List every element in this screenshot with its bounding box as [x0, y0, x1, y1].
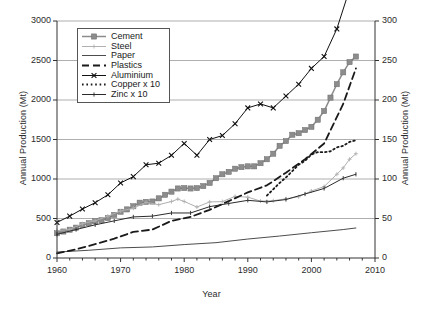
data-point [169, 189, 174, 194]
legend-item-label: Copper x 10 [111, 80, 160, 89]
data-point [226, 169, 231, 174]
data-point [322, 108, 327, 113]
legend-item: Zinc x 10 [81, 90, 164, 100]
data-point [239, 165, 244, 170]
data-point [188, 186, 193, 191]
legend-swatch-plastics [81, 61, 107, 70]
data-point [195, 153, 200, 158]
data-point [328, 95, 333, 100]
y-tick-label-right: 0 [382, 252, 422, 262]
data-point [290, 132, 295, 137]
data-point [80, 207, 85, 212]
data-point [157, 203, 161, 207]
data-point [131, 174, 136, 179]
legend-item-label: Cement [111, 32, 143, 41]
y-tick-label-left: 2500 [9, 55, 51, 65]
x-tick-label: 1960 [35, 265, 79, 275]
x-tick-label: 2000 [289, 265, 333, 275]
data-point [296, 82, 301, 87]
x-tick-label: 1990 [226, 265, 270, 275]
x-tick-label: 1970 [99, 265, 143, 275]
data-point [163, 192, 168, 197]
data-point [309, 66, 314, 71]
data-point [91, 34, 96, 39]
data-point [334, 27, 339, 32]
x-tick-label: 1980 [162, 265, 206, 275]
data-point [271, 151, 276, 156]
data-point [252, 164, 257, 169]
data-point [182, 199, 186, 203]
data-point [182, 185, 187, 190]
y-tick-label-left: 1500 [9, 134, 51, 144]
data-point [302, 127, 307, 132]
data-point [176, 197, 180, 201]
data-point [353, 54, 358, 59]
legend-swatch-steel [81, 42, 107, 51]
data-point [322, 54, 327, 59]
data-point [208, 200, 212, 204]
legend-item-label: Zinc x 10 [111, 90, 148, 99]
data-point [92, 44, 96, 48]
x-tick-label: 2010 [353, 265, 397, 275]
data-point [93, 200, 98, 205]
y-tick-label-right: 150 [382, 134, 422, 144]
y-tick-label-left: 0 [9, 252, 51, 262]
data-point [258, 161, 263, 166]
x-axis-title: Year [0, 289, 423, 299]
data-point [309, 124, 314, 129]
data-point [201, 184, 206, 189]
data-point [232, 166, 237, 171]
data-point [284, 94, 289, 99]
data-point [233, 121, 238, 126]
data-point [105, 192, 110, 197]
series-line [57, 174, 356, 234]
series-paper [57, 228, 356, 252]
legend-swatch-paper [81, 51, 107, 60]
y-tick-label-right: 50 [382, 213, 422, 223]
legend-swatch-cement [81, 32, 107, 41]
y-tick-label-right: 100 [382, 173, 422, 183]
y-tick-label-right: 300 [382, 15, 422, 25]
data-point [118, 181, 123, 186]
chart-plot-area [0, 0, 423, 309]
data-point [296, 131, 301, 136]
legend-item: Plastics [81, 61, 164, 71]
legend-swatch-zinc-x-10 [81, 90, 107, 99]
y-tick-label-left: 3000 [9, 15, 51, 25]
data-point [169, 153, 174, 158]
production-chart-figure: Annual Production (Mt) Annual Production… [0, 0, 423, 309]
y-tick-label-right: 200 [382, 94, 422, 104]
data-point [195, 205, 199, 209]
series-line [57, 228, 356, 252]
data-point [156, 196, 161, 201]
data-point [67, 214, 72, 219]
legend-swatch-copper-x-10 [81, 80, 107, 89]
data-point [315, 117, 320, 122]
data-point [169, 200, 173, 204]
data-point [264, 157, 269, 162]
data-point [283, 138, 288, 143]
data-point [277, 143, 282, 148]
data-point [220, 200, 224, 204]
y-tick-label-left: 2000 [9, 94, 51, 104]
data-point [220, 172, 225, 177]
data-point [182, 141, 187, 146]
data-point [334, 82, 339, 87]
data-point [175, 186, 180, 191]
legend-item-label: Plastics [111, 61, 142, 70]
data-point [347, 59, 352, 64]
legend-swatch-aluminium [81, 71, 107, 80]
data-point [245, 164, 250, 169]
y-tick-label-left: 500 [9, 213, 51, 223]
data-point [213, 176, 218, 181]
data-point [207, 180, 212, 185]
data-point [194, 185, 199, 190]
y-tick-label-right: 250 [382, 55, 422, 65]
y-tick-label-left: 1000 [9, 173, 51, 183]
chart-legend: CementSteelPaperPlasticsAluminiumCopper … [77, 28, 170, 103]
series-zinc-x-10 [57, 172, 356, 236]
data-point [341, 70, 346, 75]
